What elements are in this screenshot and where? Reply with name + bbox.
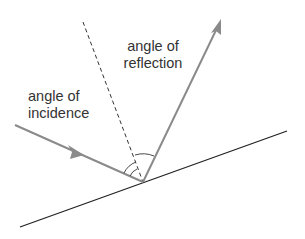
incidence-label-line1: angle of xyxy=(28,88,118,105)
angle-of-incidence-inner-arc xyxy=(130,169,137,176)
angle-of-incidence-arc xyxy=(124,162,136,173)
incidence-label-line2: incidence xyxy=(28,105,118,122)
reflection-label-line2: reflection xyxy=(117,55,189,72)
reflected-arrowhead-icon xyxy=(211,19,221,35)
incident-arrowhead-icon xyxy=(68,145,84,159)
reflection-label-line1: angle of xyxy=(117,38,189,55)
angle-of-reflection-label: angle of reflection xyxy=(117,38,189,72)
angle-of-incidence-label: angle of incidence xyxy=(28,88,118,122)
angle-of-reflection-arc xyxy=(135,154,154,156)
